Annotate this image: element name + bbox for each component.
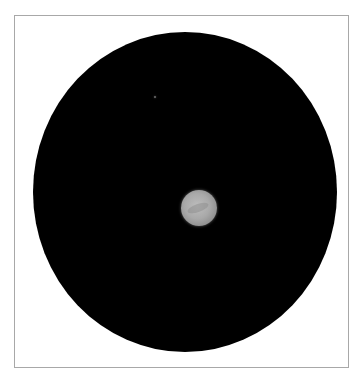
- telescope-field: [33, 32, 337, 352]
- faint-star: [154, 96, 156, 98]
- planet-surface-marking: [186, 200, 209, 215]
- image-frame: [14, 15, 349, 368]
- planet-disk: [181, 190, 217, 226]
